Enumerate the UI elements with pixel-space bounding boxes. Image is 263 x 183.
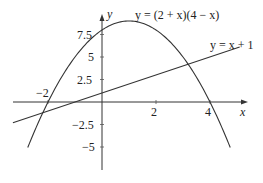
parabola-equation-label: y = (2 + x)(4 − x): [135, 8, 219, 22]
line-equation-label: y = x + 1: [210, 38, 254, 52]
x-tick-label-2: 2: [151, 105, 157, 119]
y-tick-label-2-5: 2.5: [77, 73, 92, 87]
x-axis-label: x: [239, 105, 246, 119]
y-axis-label: y: [106, 7, 113, 21]
y-tick-label-neg5: −5: [82, 140, 95, 154]
y-tick-label-neg2-5: −2.5: [72, 118, 94, 132]
x-axis-arrow-icon: [241, 100, 248, 105]
x-tick-label-neg2: −2: [36, 86, 49, 100]
y-tick-label-5: 5: [88, 50, 94, 64]
y-tick-label-7-5: 7.5: [77, 28, 92, 42]
x-tick-label-4: 4: [205, 105, 211, 119]
y-axis-arrow-icon: [100, 14, 105, 21]
function-plot: −2 2 4 7.5 5 2.5 −2.5 −5 x y y = (2 + x)…: [0, 0, 263, 183]
